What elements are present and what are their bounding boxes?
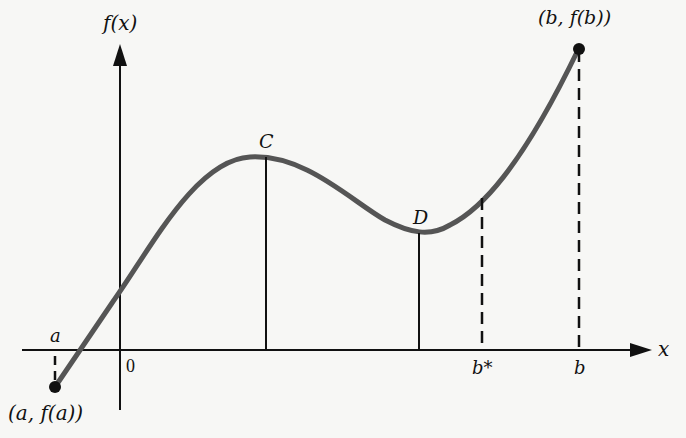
x-axis-arrow-icon xyxy=(630,343,652,357)
tick-b-label: b xyxy=(574,357,586,378)
origin-label: 0 xyxy=(126,356,135,376)
start-point-label: (a, f(a)) xyxy=(8,401,83,425)
start-point-dot xyxy=(49,381,61,393)
tick-a-label: a xyxy=(50,325,61,346)
x-axis-label: x xyxy=(658,337,669,361)
end-point-dot xyxy=(573,43,585,55)
function-curve xyxy=(55,50,578,387)
tick-b-star-label: b* xyxy=(472,357,493,378)
y-axis-arrow-icon xyxy=(113,44,127,66)
function-diagram: f(x) x 0 a b* b C D (a, f(a)) (b, f(b)) xyxy=(0,0,686,438)
y-axis-label: f(x) xyxy=(101,11,137,35)
point-c-label: C xyxy=(259,130,274,152)
point-d-label: D xyxy=(412,206,428,228)
end-point-label: (b, f(b)) xyxy=(538,6,611,28)
